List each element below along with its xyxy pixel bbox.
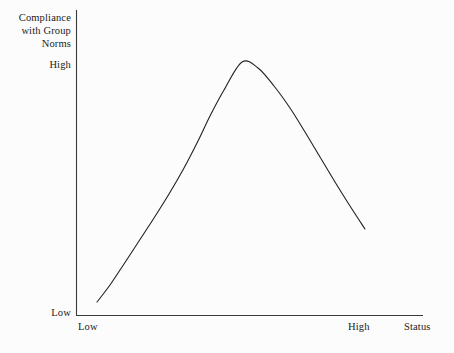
y-axis-tick-low: Low — [0, 306, 71, 319]
x-axis-title: Status — [404, 320, 431, 333]
y-axis-title-line-2: with Group — [0, 24, 71, 37]
chart-plot-area — [0, 0, 454, 353]
compliance-status-chart: Compliance with Group Norms High Low Low… — [0, 0, 454, 353]
compliance-curve — [97, 61, 365, 302]
y-axis-title: Compliance with Group Norms — [0, 11, 71, 50]
x-axis-tick-high: High — [348, 320, 370, 333]
y-axis-title-line-3: Norms — [0, 37, 71, 50]
x-axis-tick-low: Low — [78, 320, 98, 333]
y-axis-tick-high: High — [0, 58, 71, 71]
y-axis-title-line-1: Compliance — [0, 11, 71, 24]
